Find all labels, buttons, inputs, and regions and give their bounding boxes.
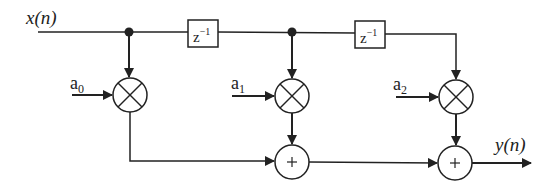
tap-line-2 [385, 34, 456, 79]
fir-filter-diagram: x(n) z−1 z−1 a0 a1 a2 [0, 0, 557, 187]
junction-dot-1 [288, 28, 297, 37]
multiplier-0 [113, 78, 147, 112]
product-line-0 [130, 112, 274, 161]
junction-dot-0 [125, 28, 134, 37]
input-label: x(n) [25, 7, 57, 29]
adder-2 [438, 146, 472, 180]
coef-label-0: a0 [70, 73, 84, 96]
coef-label-1: a1 [231, 73, 245, 96]
coef-label-2: a2 [393, 74, 407, 97]
tap-line-1 [218, 32, 355, 33]
multiplier-2 [439, 80, 473, 114]
multiplier-1 [275, 79, 309, 113]
adder-1 [275, 145, 309, 179]
sum-line-1 [309, 162, 437, 163]
output-label: y(n) [493, 134, 526, 156]
